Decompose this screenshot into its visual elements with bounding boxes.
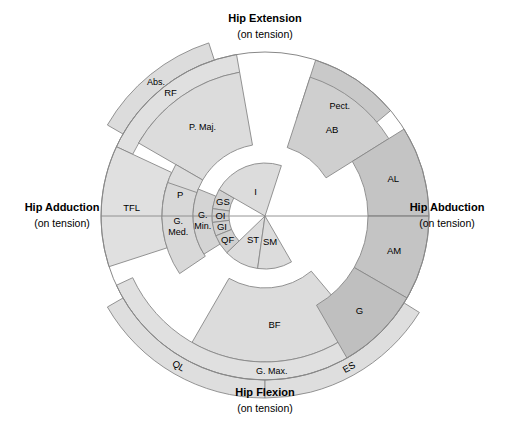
segment-label-bf: BF xyxy=(268,319,280,330)
segment-label-ab: AB xyxy=(326,124,339,135)
segment-label-pect: Pect. xyxy=(329,101,350,111)
hip-flexion-title: Hip Flexion xyxy=(235,386,295,398)
segment-label-am: AM xyxy=(387,245,401,256)
sectors-layer xyxy=(101,43,429,398)
segment-label-abs: Abs. xyxy=(147,77,165,87)
hip-abduction-title: Hip Abduction xyxy=(410,201,485,213)
axis-label-bottom: Hip Flexion (on tension) xyxy=(235,386,295,414)
segment-label-pmaj: P. Maj. xyxy=(189,122,216,132)
hip-extension-subtitle: (on tension) xyxy=(237,28,292,40)
segment-label-g: G xyxy=(356,305,363,316)
radial-diagram-svg: Abs.RFP. Maj.TFLPG.Med.G.Min.GSOIGIQFIST… xyxy=(0,0,507,433)
segment-label-p: P xyxy=(177,189,183,200)
segment-label-rf: RF xyxy=(164,87,177,98)
segment-label-gs: GS xyxy=(216,196,230,207)
segment-label-st: ST xyxy=(247,234,259,245)
segment-label-gi: GI xyxy=(217,221,227,232)
hip-adduction-title: Hip Adduction xyxy=(25,201,100,213)
segment-label-al: AL xyxy=(387,173,399,184)
hip-extension-title: Hip Extension xyxy=(228,12,302,24)
axis-label-left: Hip Adduction (on tension) xyxy=(25,201,100,229)
axis-label-top: Hip Extension (on tension) xyxy=(228,12,302,40)
segment-label-tfl: TFL xyxy=(123,202,140,213)
hip-adduction-subtitle: (on tension) xyxy=(34,217,89,229)
segment-label-qf: QF xyxy=(221,234,234,245)
segment-label-gmax: G. Max. xyxy=(256,366,288,376)
segment-label-oi: OI xyxy=(215,210,225,221)
hip-abduction-subtitle: (on tension) xyxy=(419,217,474,229)
segment-label-sm: SM xyxy=(263,236,277,247)
hip-flexion-subtitle: (on tension) xyxy=(237,402,292,414)
hip-muscle-radial-diagram: Abs.RFP. Maj.TFLPG.Med.G.Min.GSOIGIQFIST… xyxy=(0,0,507,433)
segment-label-i: I xyxy=(254,186,257,197)
